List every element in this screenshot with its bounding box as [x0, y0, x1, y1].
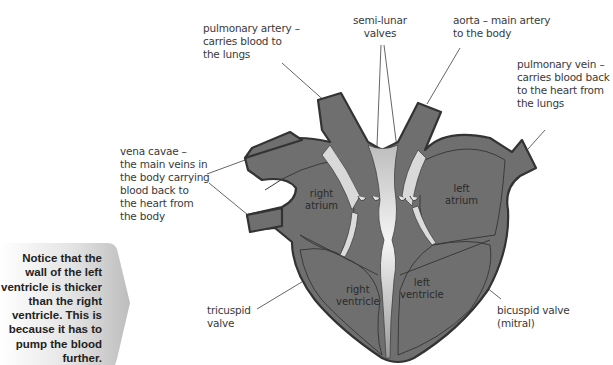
- label-tricuspid-valve: tricuspid valve: [207, 304, 251, 330]
- label-semi-lunar-valves: semi-lunar valves: [353, 14, 407, 40]
- note-callout: Notice that the wall of the left ventric…: [0, 243, 150, 365]
- label-aorta: aorta – main artery to the body: [453, 14, 550, 40]
- label-right-ventricle: right ventricle: [336, 284, 380, 308]
- label-left-ventricle: left ventricle: [400, 277, 444, 301]
- label-right-atrium: right atrium: [305, 188, 338, 212]
- leader-aorta: [427, 48, 460, 104]
- label-left-atrium: left atrium: [445, 183, 478, 207]
- leader-vena-cava-top: [207, 160, 245, 174]
- label-pulmonary-vein: pulmonary vein – carries blood back to t…: [517, 58, 610, 110]
- label-pulmonary-artery: pulmonary artery – carries blood to the …: [203, 22, 300, 61]
- label-vena-cavae: vena cavae – the main veins in the body …: [120, 145, 210, 223]
- label-bicuspid-valve: bicuspid valve (mitral): [497, 304, 570, 330]
- callout-text: Notice that the wall of the left ventric…: [1, 251, 102, 365]
- leader-pulmonary-artery: [282, 63, 328, 104]
- leader-vena-cava-bottom: [209, 183, 248, 215]
